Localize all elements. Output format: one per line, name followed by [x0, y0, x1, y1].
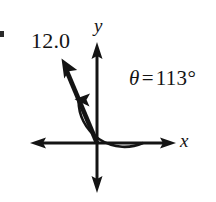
x-axis-label: x: [180, 131, 188, 150]
angle-equals-sign: =: [140, 66, 156, 90]
angle-symbol: θ: [129, 66, 140, 90]
angle-value: 113°: [156, 66, 196, 90]
y-axis-label: y: [94, 16, 102, 35]
vector-angle-figure: 12.0 y x θ=113°: [0, 0, 216, 202]
vector-shaft: [67, 71, 98, 144]
scan-edge-artifact: [0, 31, 4, 37]
angle-label: θ=113°: [129, 68, 196, 89]
vector-magnitude-label: 12.0: [31, 30, 70, 52]
